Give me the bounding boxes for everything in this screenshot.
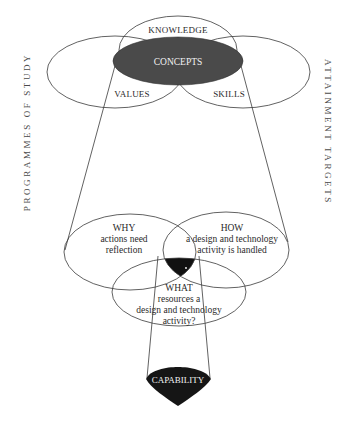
skills-label: SKILLS xyxy=(213,89,245,99)
why-line2: reflection xyxy=(106,245,143,255)
how-line2: activity is handled xyxy=(197,245,267,255)
capability-diagram: PROGRAMMES OF STUDY ATTAINMENT TARGETS K… xyxy=(0,0,351,426)
what-line3: activity? xyxy=(163,316,196,326)
why-title: WHY xyxy=(113,223,136,233)
lower-funnel-left-line xyxy=(147,256,158,378)
attainment-targets-label: ATTAINMENT TARGETS xyxy=(323,59,333,205)
what-line1: resources a xyxy=(158,294,201,304)
intersection-dot xyxy=(185,267,187,269)
values-label: VALUES xyxy=(114,89,150,99)
programmes-of-study-label: PROGRAMMES OF STUDY xyxy=(22,53,32,211)
funnel-right-line xyxy=(240,62,288,242)
how-line1: a design and technology xyxy=(186,234,278,244)
how-title: HOW xyxy=(221,223,244,233)
concepts-label: CONCEPTS xyxy=(154,57,203,67)
capability-label: CAPABILITY xyxy=(152,375,205,385)
what-line2: design and technology xyxy=(136,305,222,315)
why-line1: actions need xyxy=(100,234,147,244)
lower-funnel-right-line xyxy=(199,256,210,378)
what-title: WHAT xyxy=(165,283,193,293)
capability-shape xyxy=(146,367,211,406)
knowledge-label: KNOWLEDGE xyxy=(148,25,208,35)
middle-venn: WHY actions need reflection HOW a design… xyxy=(64,212,289,326)
top-venn: KNOWLEDGE CONCEPTS VALUES SKILLS xyxy=(47,16,310,108)
